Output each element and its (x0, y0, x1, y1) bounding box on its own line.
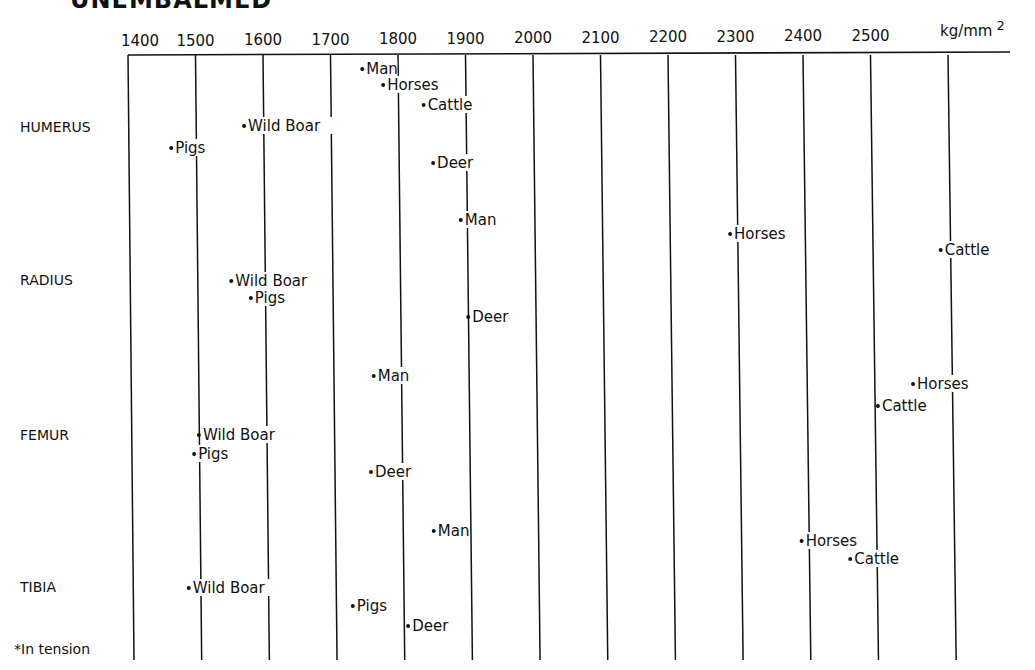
x-tick-label: 1600 (244, 31, 282, 49)
gridline (871, 55, 879, 660)
data-point-marker (431, 161, 435, 165)
gridline (948, 55, 956, 660)
top-axis-line (128, 52, 1010, 55)
data-point-label: Deer (375, 463, 412, 481)
bone-labels: HUMERUSRADIUSFEMURTIBIA (19, 119, 91, 595)
data-point-humerus-pigs: Pigs (169, 139, 215, 157)
data-point-label: Cattle (854, 550, 899, 568)
data-point-tibia-cattle: Cattle (848, 550, 912, 568)
data-point-label: Cattle (945, 241, 990, 259)
data-point-label: Horses (734, 225, 786, 243)
gridline (736, 55, 744, 660)
data-point-label: Cattle (428, 96, 473, 114)
gridline (466, 55, 473, 660)
x-tick-label: 1400 (121, 32, 159, 50)
gridline (803, 55, 811, 660)
data-point-marker (800, 539, 804, 543)
gridline (263, 55, 269, 660)
data-point-marker (229, 279, 233, 283)
data-point-femur-pigs: Pigs (192, 445, 238, 463)
data-point-marker (187, 586, 191, 590)
data-point-tibia-horses: Horses (800, 532, 864, 550)
x-tick-label: 1700 (311, 31, 349, 49)
data-point-radius-pigs: Pigs (249, 289, 295, 307)
data-point-marker (360, 67, 364, 71)
data-point-label: Man (438, 522, 470, 540)
x-tick-label: 2500 (851, 27, 889, 45)
x-tick-labels: 1400150016001700180019002000210022002300… (121, 27, 890, 51)
data-point-femur-horses: Horses (911, 375, 975, 393)
data-point-label: Horses (387, 76, 439, 94)
data-point-humerus-deer: Deer (431, 154, 477, 172)
data-point-femur-man: Man (372, 367, 410, 385)
gridline (128, 55, 134, 660)
gridline (668, 55, 675, 660)
data-point-marker (466, 315, 470, 319)
data-point-label: Deer (437, 154, 474, 172)
data-point-marker (848, 557, 852, 561)
data-point-radius-deer: Deer (466, 308, 512, 326)
data-point-label: Pigs (198, 445, 228, 463)
data-point-marker (459, 218, 463, 222)
data-point-humerus-wild-boar: Wild Boar (242, 117, 333, 135)
gridline (398, 55, 405, 660)
data-point-marker (242, 124, 246, 128)
data-point-humerus-horses: Horses (381, 76, 445, 94)
data-point-label: Wild Boar (193, 579, 266, 597)
data-point-femur-cattle: Cattle (876, 397, 940, 415)
data-point-label: Deer (412, 617, 449, 635)
data-point-marker (351, 604, 355, 608)
data-point-marker (192, 452, 196, 456)
bone-label-radius: RADIUS (20, 272, 73, 288)
chart-canvas: 1400150016001700180019002000210022002300… (0, 0, 1035, 670)
data-point-marker (249, 296, 253, 300)
data-point-label: Wild Boar (248, 117, 321, 135)
data-point-label: Man (465, 211, 497, 229)
data-point-label: Deer (472, 308, 509, 326)
x-tick-label: 2300 (716, 28, 754, 46)
data-point-femur-wild-boar: Wild Boar (197, 426, 288, 444)
data-point-tibia-deer: Deer (406, 617, 452, 635)
footnote: *In tension (14, 641, 90, 657)
data-point-marker (876, 404, 880, 408)
data-point-marker (372, 374, 376, 378)
data-point-marker (381, 83, 385, 87)
data-point-marker (369, 470, 373, 474)
data-point-marker (432, 529, 436, 533)
gridline (601, 55, 608, 660)
bone-label-humerus: HUMERUS (20, 119, 91, 135)
bone-label-tibia: TIBIA (19, 579, 56, 595)
data-point-tibia-wild-boar: Wild Boar (187, 579, 278, 597)
data-point-label: Pigs (175, 139, 205, 157)
data-point-label: Pigs (255, 289, 285, 307)
data-point-marker (197, 433, 201, 437)
data-point-tibia-pigs: Pigs (351, 597, 397, 615)
data-point-label: Pigs (357, 597, 387, 615)
x-tick-label: 1500 (176, 32, 214, 50)
gridline (533, 55, 540, 660)
data-point-marker (422, 103, 426, 107)
data-point-radius-cattle: Cattle (939, 241, 1003, 259)
data-point-marker (169, 146, 173, 150)
x-tick-label: 1900 (446, 30, 484, 48)
data-point-radius-horses: Horses (728, 225, 792, 243)
x-tick-label: 2400 (784, 27, 822, 45)
x-axis-unit-label: kg/mm2 (940, 18, 1005, 40)
data-point-label: Horses (806, 532, 858, 550)
data-point-radius-man: Man (459, 211, 497, 229)
data-point-label: Wild Boar (235, 272, 308, 290)
data-point-marker (939, 248, 943, 252)
data-point-humerus-cattle: Cattle (422, 96, 486, 114)
data-point-marker (728, 232, 732, 236)
data-point-femur-deer: Deer (369, 463, 415, 481)
data-point-label: Man (378, 367, 410, 385)
x-tick-label: 2200 (649, 28, 687, 46)
gridline (331, 55, 338, 660)
x-tick-label: 2000 (514, 29, 552, 47)
bone-label-femur: FEMUR (20, 427, 69, 443)
data-point-label: Horses (917, 375, 969, 393)
unit-superscript: 2 (997, 18, 1005, 33)
data-point-label: Cattle (882, 397, 927, 415)
data-point-label: Wild Boar (203, 426, 276, 444)
data-point-marker (406, 624, 410, 628)
